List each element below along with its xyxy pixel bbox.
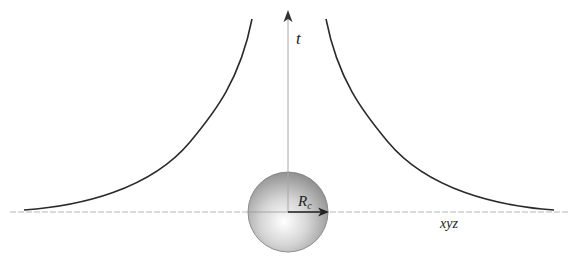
left-curve (24, 19, 252, 210)
radius-label-main: R (297, 193, 307, 209)
horizontal-axis-label: xyz (439, 216, 458, 231)
right-curve (326, 19, 554, 210)
vertical-axis-label: t (296, 29, 302, 48)
diagram-canvas: t Rc xyz (0, 0, 577, 259)
radius-label-subscript: c (307, 200, 312, 211)
